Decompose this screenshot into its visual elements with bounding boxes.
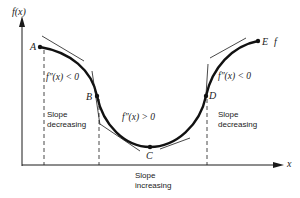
point-e [256,39,260,43]
concave-right-annotation: f″(x) < 0 [218,71,251,81]
slope-right-line2: decreasing [218,120,257,129]
concavity-diagram: f(x) x f A B C D E f″(x) < 0 f″(x) > 0 f… [0,0,300,198]
function-curve [40,41,258,147]
y-axis-label: f(x) [12,6,26,17]
tangent-near-b [92,71,100,125]
y-axis [19,16,25,166]
slope-left-line2: decreasing [47,120,86,129]
point-label-e: E [262,36,268,47]
curve-points [38,39,260,149]
point-c [148,145,152,149]
tangent-near-c-left [100,124,140,151]
curve-label: f [274,36,277,47]
slope-right-line1: Slope [218,110,238,119]
point-d [204,94,208,98]
point-label-a: A [30,41,36,52]
dashed-guides [44,50,207,165]
slope-middle-line2: increasing [135,181,171,190]
concave-left-annotation: f″(x) < 0 [46,72,79,82]
diagram-graphics [0,0,300,198]
x-axis-label: x [287,158,291,169]
y-axis-arrow-icon [19,16,25,27]
point-label-c: C [146,150,153,161]
point-a [38,45,42,49]
x-axis-arrow-icon [273,162,284,168]
point-label-b: B [86,91,92,102]
convex-middle-annotation: f″(x) > 0 [122,112,155,122]
point-label-d: D [209,90,216,101]
x-axis [22,162,284,168]
slope-middle-line1: Slope [135,171,155,180]
point-b [95,94,99,98]
slope-left-line1: Slope [47,110,67,119]
